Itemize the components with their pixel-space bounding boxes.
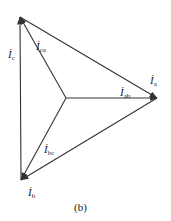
figure-caption: (b) xyxy=(74,201,87,214)
label-ia: İa xyxy=(149,74,158,88)
label-ica: İca xyxy=(35,40,47,54)
phasor-diagram: İc İca İa İab İb İbc (b) xyxy=(0,0,171,221)
vector-ia xyxy=(20,17,157,98)
vector-ic xyxy=(20,17,21,180)
label-ib: İb xyxy=(27,186,36,200)
vector-ib xyxy=(21,98,157,180)
label-iab: İab xyxy=(119,86,131,100)
label-ic: İc xyxy=(7,48,15,62)
vector-ica xyxy=(20,17,66,98)
vector-ibc xyxy=(21,98,66,180)
label-ibc: İbc xyxy=(43,143,54,157)
